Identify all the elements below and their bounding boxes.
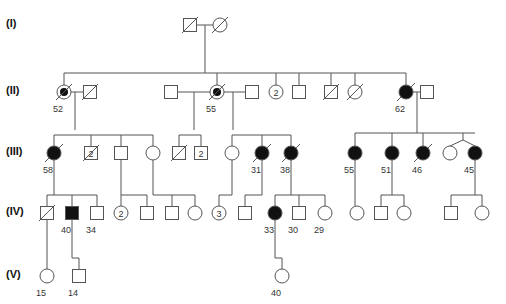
- individual-female: 62: [395, 83, 415, 114]
- age-label: 14: [68, 288, 78, 298]
- generation-label: (IV): [6, 205, 24, 217]
- female-circle-icon: [443, 146, 457, 160]
- generation-label: (I): [6, 17, 16, 29]
- individual-female: 38: [280, 144, 300, 175]
- individual-female: 51: [381, 146, 399, 175]
- female-circle-icon: [146, 146, 160, 160]
- age-label: 15: [36, 288, 46, 298]
- individual-male: [182, 17, 198, 33]
- female-circle-icon: [47, 146, 61, 160]
- female-circle-icon: [348, 146, 362, 160]
- age-label: 45: [464, 165, 474, 175]
- age-label: 62: [395, 104, 405, 114]
- individual-male: [82, 84, 98, 100]
- age-label: 29: [314, 225, 324, 235]
- individual-male: [375, 207, 388, 220]
- generation-label: (III): [6, 145, 23, 157]
- individual-female: 15: [36, 269, 54, 298]
- individual-female: [212, 17, 228, 33]
- individual-female: [350, 206, 364, 220]
- individual-female: 45: [464, 146, 482, 175]
- individual-male: [39, 205, 55, 221]
- female-circle-icon: [399, 85, 413, 99]
- individual-male: 2: [83, 145, 99, 161]
- individual-female: [475, 206, 489, 220]
- individual-male: [293, 86, 306, 99]
- age-label: 40: [271, 288, 281, 298]
- female-circle-icon: [475, 206, 489, 220]
- male-square-icon: [375, 207, 388, 220]
- female-circle-icon: [255, 146, 269, 160]
- age-label: 58: [43, 165, 53, 175]
- male-square-icon: [73, 270, 86, 283]
- male-square-icon: [166, 207, 179, 220]
- male-square-icon: [246, 86, 259, 99]
- age-label: 52: [53, 104, 63, 114]
- male-square-icon: [239, 207, 252, 220]
- age-label: 34: [86, 225, 96, 235]
- individual-male: 40: [61, 207, 79, 236]
- pedigree-svg: 5255262582231385551464540342333302915144…: [0, 0, 506, 304]
- individual-female: 40: [271, 269, 289, 298]
- individual-female: 58: [43, 144, 63, 175]
- female-circle-icon: [318, 206, 332, 220]
- age-label: 51: [381, 165, 391, 175]
- female-circle-icon: [416, 146, 430, 160]
- age-label: 30: [288, 225, 298, 235]
- individual-female: [347, 84, 363, 100]
- individual-male: 34: [86, 207, 104, 236]
- female-circle-icon: [268, 206, 282, 220]
- sibling-count: 2: [273, 88, 278, 98]
- individual-female: 2: [269, 85, 283, 99]
- male-square-icon: [66, 207, 79, 220]
- individual-male: [323, 84, 339, 100]
- individual-male: [166, 207, 179, 220]
- sibling-count: 3: [216, 209, 221, 219]
- pedigree-chart: 5255262582231385551464540342333302915144…: [0, 0, 506, 304]
- age-label: 40: [61, 225, 71, 235]
- male-square-icon: [165, 86, 178, 99]
- female-circle-icon: [284, 146, 298, 160]
- individual-female: [443, 146, 457, 160]
- individual-female: 3: [212, 206, 226, 220]
- individual-male: [165, 86, 178, 99]
- male-square-icon: [445, 207, 458, 220]
- male-square-icon: [141, 207, 154, 220]
- individual-female: 55: [344, 146, 362, 175]
- deceased-slash-icon: [397, 97, 401, 101]
- male-square-icon: [293, 207, 306, 220]
- female-circle-icon: [350, 206, 364, 220]
- age-label: 38: [280, 165, 290, 175]
- female-circle-icon: [397, 206, 411, 220]
- individual-female: [225, 146, 239, 160]
- female-circle-icon: [275, 269, 289, 283]
- sibling-count: 2: [198, 149, 203, 159]
- individual-male: [115, 147, 128, 160]
- sibling-count: 2: [118, 209, 123, 219]
- female-circle-icon: [40, 269, 54, 283]
- age-label: 46: [412, 165, 422, 175]
- age-label: 33: [264, 225, 274, 235]
- individual-male: [421, 86, 434, 99]
- individual-male: [239, 207, 252, 220]
- individual-male: [141, 207, 154, 220]
- age-label: 31: [251, 165, 261, 175]
- male-square-icon: [115, 147, 128, 160]
- individual-male: 14: [68, 270, 86, 299]
- individual-female: 52: [53, 84, 72, 114]
- age-label: 55: [344, 165, 354, 175]
- deceased-slash-icon: [414, 158, 418, 162]
- deceased-slash-icon: [282, 158, 286, 162]
- individual-male: 2: [195, 147, 208, 160]
- female-circle-icon: [225, 146, 239, 160]
- individual-female: 31: [251, 144, 271, 175]
- generation-label: (V): [6, 268, 21, 280]
- male-square-icon: [91, 207, 104, 220]
- female-circle-icon: [188, 206, 202, 220]
- female-circle-icon: [468, 146, 482, 160]
- deceased-slash-icon: [253, 158, 257, 162]
- generation-label: (II): [6, 84, 19, 96]
- individual-male: [246, 86, 259, 99]
- male-square-icon: [421, 86, 434, 99]
- individual-female: [397, 206, 411, 220]
